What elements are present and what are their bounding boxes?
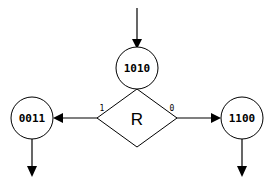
node-top-label: 1010 <box>124 62 151 75</box>
edge-branch-one: 1 <box>53 104 105 123</box>
node-left[interactable]: 0011 <box>11 97 53 139</box>
node-right-label: 1100 <box>229 112 256 125</box>
node-right[interactable]: 1100 <box>221 97 263 139</box>
node-left-label: 0011 <box>19 112 46 125</box>
node-top[interactable]: 1010 <box>116 47 158 89</box>
arrowhead-left-icon <box>53 113 63 123</box>
arrowhead-right-icon <box>211 113 221 123</box>
edge-exit-left <box>27 139 37 177</box>
edge-entry-arrow <box>132 8 142 49</box>
node-decision[interactable]: R <box>97 89 177 147</box>
state-transition-diagram: 1 0 R 1010 0011 <box>0 0 274 185</box>
edge-branch-zero: 0 <box>170 104 221 123</box>
arrowhead-down-icon <box>27 166 37 177</box>
edge-label-branch-one: 1 <box>100 104 105 113</box>
edge-exit-right <box>237 139 247 177</box>
node-decision-label: R <box>131 110 143 129</box>
arrowhead-down-icon <box>237 166 247 177</box>
edge-label-branch-zero: 0 <box>170 104 175 113</box>
diagram-canvas: 1 0 R 1010 0011 <box>0 0 274 185</box>
